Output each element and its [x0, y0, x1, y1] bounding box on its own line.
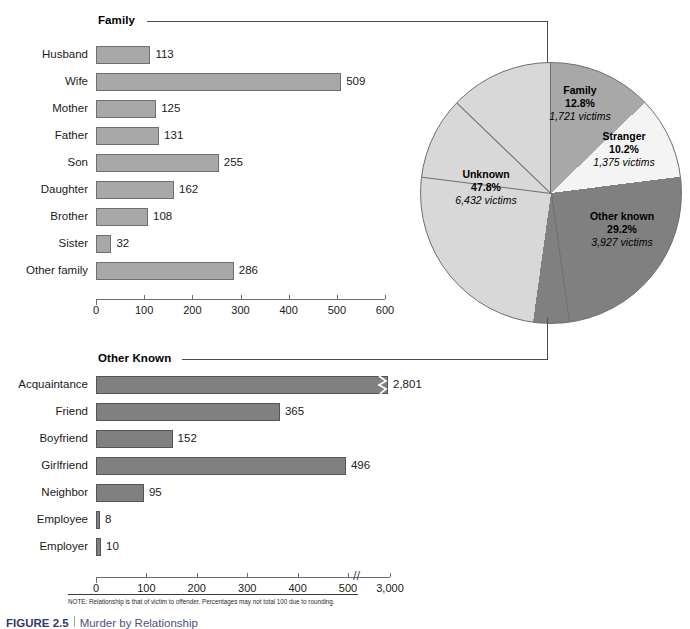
bar-value-label: 125: [161, 102, 180, 114]
bar-category-label: Neighbor: [0, 486, 88, 498]
bar-category-label: Mother: [0, 102, 88, 114]
bar-row: Neighbor95: [0, 484, 420, 502]
bar-value-label: 113: [155, 48, 173, 60]
bar-row: Employer10: [0, 538, 420, 556]
x-axis-tick-label: 500: [328, 304, 346, 316]
bar: [96, 262, 234, 280]
pie-label-stranger-percent: 10.2%: [609, 143, 639, 155]
bar-value-label: 131: [164, 129, 183, 141]
x-axis-tick-label: 3,000: [376, 582, 404, 594]
pie-label-other-known-percent: 29.2%: [607, 223, 637, 235]
bar-value-label: 152: [178, 432, 197, 444]
x-axis-break-symbol: //: [353, 569, 360, 582]
bar-row: Friend365: [0, 403, 420, 421]
bar: [96, 100, 156, 118]
bar-value-label: 95: [149, 486, 162, 498]
x-axis-tick-label: 300: [231, 304, 249, 316]
bar-category-label: Son: [0, 156, 88, 168]
bar: [96, 181, 174, 199]
pie-label-unknown-name: Unknown: [462, 168, 509, 180]
figure-caption-number: FIGURE 2.5: [6, 617, 69, 629]
x-axis-tick: [192, 295, 193, 299]
bar: [96, 73, 341, 91]
pie-label-family-name: Family: [563, 84, 596, 96]
x-axis-line: [96, 577, 390, 578]
pie-label-stranger: Stranger 10.2% 1,375 victims: [568, 130, 680, 169]
bar-row: Girlfriend496: [0, 457, 420, 475]
x-axis-tick: [348, 573, 349, 577]
bar-category-label: Employer: [0, 540, 88, 552]
x-axis-tick-label: 100: [135, 304, 153, 316]
note-divider: [68, 594, 358, 595]
bar-value-label: 509: [346, 75, 365, 87]
bar-category-label: Acquaintance: [0, 378, 88, 390]
x-axis-tick: [247, 573, 248, 577]
chart-family: Husband113Wife509Mother125Father131Son25…: [0, 0, 400, 310]
pie-label-other-known-victims: 3,927 victims: [591, 236, 652, 248]
pie-label-family: Family 12.8% 1,721 victims: [528, 84, 632, 123]
x-axis-tick-label: 200: [188, 582, 206, 594]
bar-row: Other family286: [0, 262, 400, 280]
bar-row: Husband113: [0, 46, 400, 64]
x-axis-tick: [337, 295, 338, 299]
bar-category-label: Husband: [0, 48, 88, 60]
pie-label-other-known: Other known 29.2% 3,927 victims: [560, 210, 684, 249]
bar-value-label: 365: [285, 405, 304, 417]
bar-row: Brother108: [0, 208, 400, 226]
bar-value-label: 2,801: [393, 378, 422, 390]
bar-row: Wife509: [0, 73, 400, 91]
bar-category-label: Other family: [0, 264, 88, 276]
x-axis-tick: [144, 295, 145, 299]
x-axis-tick: [197, 573, 198, 577]
bar-row: Mother125: [0, 100, 400, 118]
bar-row: Boyfriend152: [0, 430, 420, 448]
bar: [96, 208, 148, 226]
pie-label-unknown-percent: 47.8%: [471, 181, 501, 193]
x-axis-tick: [241, 295, 242, 299]
bar: [96, 403, 280, 421]
x-axis-tick-label: 400: [279, 304, 297, 316]
pie-label-family-victims: 1,721 victims: [549, 110, 610, 122]
bar: [96, 538, 101, 556]
x-axis-tick-label: 200: [183, 304, 201, 316]
bar: [96, 127, 159, 145]
pie-label-stranger-victims: 1,375 victims: [593, 156, 654, 168]
bar: [96, 457, 346, 475]
x-axis-tick: [289, 295, 290, 299]
figure-caption: FIGURE 2.5 Murder by Relationship: [6, 616, 198, 629]
bar-category-label: Boyfriend: [0, 432, 88, 444]
bar: [96, 235, 111, 253]
bar-row: Daughter162: [0, 181, 400, 199]
bar-value-label: 255: [224, 156, 243, 168]
bar-category-label: Father: [0, 129, 88, 141]
bar: [96, 376, 388, 394]
pie-label-family-percent: 12.8%: [565, 97, 595, 109]
bar-category-label: Friend: [0, 405, 88, 417]
bar-value-label: 32: [116, 237, 129, 249]
pie-label-other-known-name: Other known: [590, 210, 654, 222]
x-axis-line: [96, 299, 385, 300]
bar: [96, 484, 144, 502]
bar-category-label: Sister: [0, 237, 88, 249]
x-axis-tick-label: 0: [93, 582, 99, 594]
x-axis-tick: [298, 573, 299, 577]
bar: [96, 154, 219, 172]
caption-divider: [74, 616, 75, 627]
bar-category-label: Employee: [0, 513, 88, 525]
bar: [96, 430, 173, 448]
x-axis-tick-label: 400: [288, 582, 306, 594]
x-axis-tick-label: 100: [137, 582, 155, 594]
other-known-connector-vertical: [547, 318, 548, 360]
bar-category-label: Brother: [0, 210, 88, 222]
figure-note: NOTE: Relationship is that of victim to …: [68, 598, 335, 605]
x-axis-tick-label: 300: [238, 582, 256, 594]
bar: [96, 46, 150, 64]
x-axis-tick: [390, 573, 391, 577]
bar-value-label: 162: [179, 183, 198, 195]
bar-value-label: 286: [239, 264, 258, 276]
x-axis-tick-label: 500: [339, 582, 357, 594]
chart-other-known: Acquaintance2,801Friend365Boyfriend152Gi…: [0, 340, 420, 590]
bar-category-label: Daughter: [0, 183, 88, 195]
bar-category-label: Girlfriend: [0, 459, 88, 471]
